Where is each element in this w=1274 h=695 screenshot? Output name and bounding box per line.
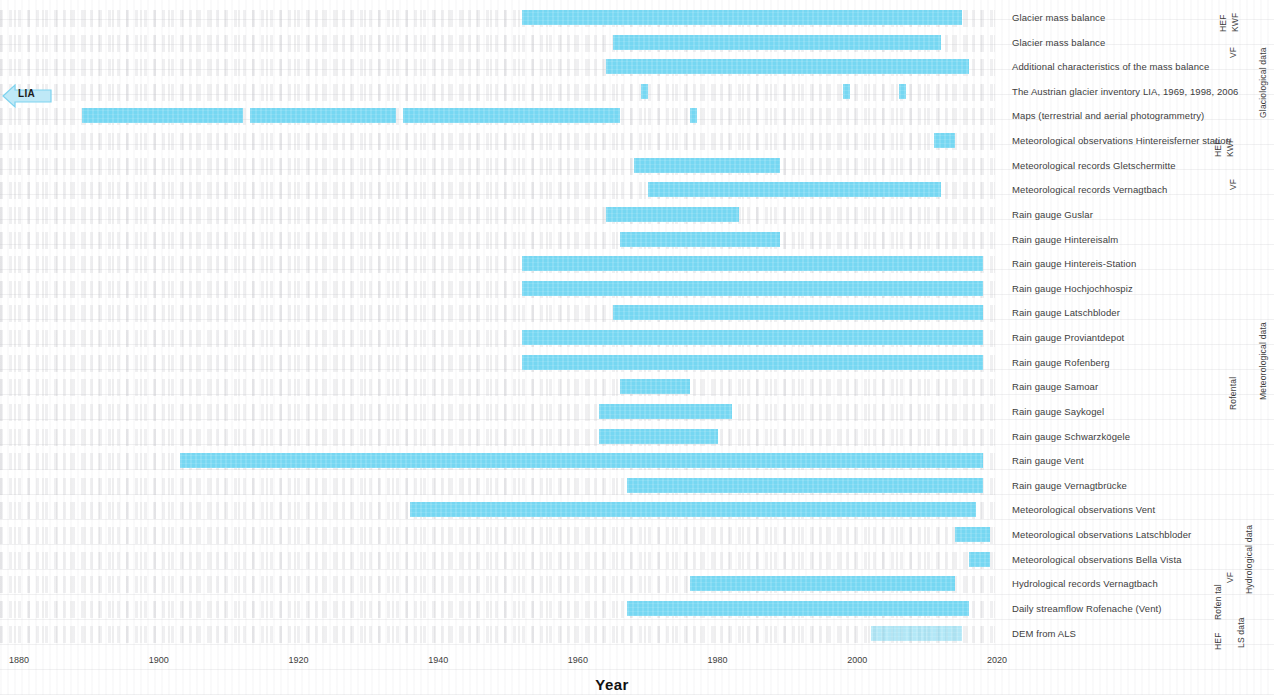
x-axis-tick: 1960 <box>568 655 588 665</box>
timeline-row: Additional characteristics of the mass b… <box>0 55 1274 80</box>
row-label: Glacier mass balance <box>1012 12 1105 23</box>
timeline-bar <box>403 108 620 123</box>
timeline-row: Glacier mass balance <box>0 6 1274 31</box>
row-background-texture <box>0 207 995 224</box>
timeline-bar <box>250 108 397 123</box>
timeline-row: Rain gauge Hintereisalm <box>0 228 1274 253</box>
lia-marker-label: LIA <box>18 88 35 99</box>
timeline-bar <box>934 133 955 148</box>
timeline-row: Meteorological observations Vent <box>0 498 1274 523</box>
timeline-row: Meteorological records Vernagtbach <box>0 178 1274 203</box>
row-background-texture <box>0 527 995 544</box>
timeline-bar <box>627 601 969 616</box>
row-label: Rain gauge Vent <box>1012 455 1084 466</box>
row-label: Rain gauge Schwarzkögele <box>1012 431 1130 442</box>
timeline-bar <box>620 232 781 247</box>
timeline-bar <box>690 108 697 123</box>
timeline-bar <box>606 59 969 74</box>
timeline-row: Glacier mass balance <box>0 31 1274 56</box>
timeline-bar <box>180 453 983 468</box>
row-background-texture <box>0 404 995 421</box>
timeline-row: Rain gauge Hochjochhospiz <box>0 277 1274 302</box>
row-label: Rain gauge Saykogel <box>1012 406 1104 417</box>
row-background-texture <box>0 626 995 643</box>
timeline-row: DEM from ALS <box>0 622 1274 647</box>
row-label: Rain gauge Proviantdepot <box>1012 332 1124 343</box>
timeline-bar <box>627 478 983 493</box>
row-background-texture <box>0 133 995 150</box>
timeline-bar <box>634 158 781 173</box>
x-axis-tick: 1980 <box>708 655 728 665</box>
timeline-bar <box>522 330 983 345</box>
row-label: Glacier mass balance <box>1012 37 1105 48</box>
row-background-texture <box>0 552 995 569</box>
row-background-texture <box>0 158 995 175</box>
row-label: The Austrian glacier inventory LIA, 1969… <box>1012 86 1238 97</box>
timeline-row: Rain gauge Samoar <box>0 375 1274 400</box>
row-label: Additional characteristics of the mass b… <box>1012 61 1209 72</box>
timeline-bar <box>410 502 976 517</box>
row-label: Rain gauge Guslar <box>1012 209 1093 220</box>
row-label: Rain gauge Hintereis-Station <box>1012 258 1136 269</box>
x-axis-title: Year <box>0 676 1224 693</box>
row-label: Rain gauge Hintereisalm <box>1012 234 1118 245</box>
row-label: Daily streamflow Rofenache (Vent) <box>1012 603 1162 614</box>
row-label: Rain gauge Vernagtbrücke <box>1012 480 1127 491</box>
timeline-bar <box>871 626 962 641</box>
row-label: Meteorological observations Latschbloder <box>1012 529 1191 540</box>
timeline-bar <box>599 429 718 444</box>
timeline-bar <box>690 576 955 591</box>
timeline-row: Meteorological observations Bella Vista <box>0 548 1274 573</box>
timeline-bar <box>648 182 941 197</box>
x-axis-tick: 2000 <box>847 655 867 665</box>
row-label: DEM from ALS <box>1012 628 1076 639</box>
timeline-row: Meteorological observations Latschbloder <box>0 523 1274 548</box>
row-label: Meteorological records Vernagtbach <box>1012 184 1168 195</box>
timeline-row: Rain gauge Schwarzkögele <box>0 425 1274 450</box>
timeline-row: Rain gauge Hintereis-Station <box>0 252 1274 277</box>
timeline-bar <box>613 305 983 320</box>
row-label: Meteorological observations Vent <box>1012 504 1155 515</box>
timeline-bar <box>522 355 983 370</box>
timeline-row: Hydrological records Vernagtbach <box>0 572 1274 597</box>
timeline-row: Rain gauge Rofenberg <box>0 351 1274 376</box>
timeline-bar <box>955 527 990 542</box>
timeline-bar <box>82 108 243 123</box>
timeline-row: Meteorological observations Hintereisfer… <box>0 129 1274 154</box>
timeline-bar <box>613 35 941 50</box>
x-axis-tick: 1880 <box>9 655 29 665</box>
x-axis-tick: 1900 <box>149 655 169 665</box>
timeline-row: The Austrian glacier inventory LIA, 1969… <box>0 80 1274 105</box>
row-label: Maps (terrestrial and aerial photogramme… <box>1012 110 1204 121</box>
row-label: Meteorological records Gletschermitte <box>1012 160 1176 171</box>
timeline-row: Rain gauge Latschbloder <box>0 301 1274 326</box>
x-axis: 18801900192019401960198020002020 <box>0 655 1274 675</box>
timeline-bar <box>843 84 850 99</box>
timeline-bar <box>606 207 739 222</box>
row-label: Meteorological observations Bella Vista <box>1012 554 1182 565</box>
timeline-row: Rain gauge Guslar <box>0 203 1274 228</box>
row-background-texture <box>0 429 995 446</box>
timeline-bar <box>522 256 983 271</box>
row-background-texture <box>0 232 995 249</box>
row-label: Meteorological observations Hintereisfer… <box>1012 135 1231 146</box>
timeline-row: Rain gauge Proviantdepot <box>0 326 1274 351</box>
timeline-bar <box>620 379 690 394</box>
timeline-chart: Glacier mass balanceGlacier mass balance… <box>0 0 1274 695</box>
row-label: Rain gauge Samoar <box>1012 381 1098 392</box>
timeline-bar <box>599 404 732 419</box>
row-background-texture <box>0 379 995 396</box>
row-label: Hydrological records Vernagtbach <box>1012 578 1158 589</box>
row-label: Rain gauge Hochjochhospiz <box>1012 283 1133 294</box>
x-axis-tick: 2020 <box>987 655 1007 665</box>
timeline-row: Daily streamflow Rofenache (Vent) <box>0 597 1274 622</box>
timeline-bar <box>641 84 648 99</box>
timeline-row: Rain gauge Saykogel <box>0 400 1274 425</box>
x-axis-tick: 1920 <box>288 655 308 665</box>
timeline-bar <box>969 552 990 567</box>
timeline-bar <box>522 281 983 296</box>
row-label: Rain gauge Rofenberg <box>1012 357 1110 368</box>
x-axis-tick: 1940 <box>428 655 448 665</box>
timeline-row: Maps (terrestrial and aerial photogramme… <box>0 104 1274 129</box>
row-label: Rain gauge Latschbloder <box>1012 307 1120 318</box>
